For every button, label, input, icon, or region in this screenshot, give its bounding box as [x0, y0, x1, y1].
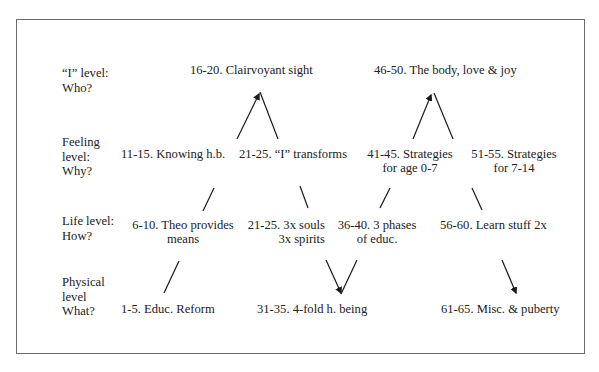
node-51-55: 51-55. Strategies for 7-14: [463, 147, 565, 175]
level-label-i: “I” level: Who?: [62, 66, 109, 95]
level-label-life: Life level: How?: [62, 214, 114, 243]
node-21-25-transforms: 21-25. “I” transforms: [239, 147, 347, 161]
node-36-40: 36-40. 3 phases of educ.: [334, 218, 420, 246]
node-51-55-line1: 51-55. Strategies: [463, 147, 565, 161]
node-61-65: 61-65. Misc. & puberty: [441, 302, 560, 316]
node-41-45: 41-45. Strategies for age 0-7: [360, 147, 460, 175]
node-51-55-line2: for 7-14: [463, 161, 565, 175]
node-41-45-line1: 41-45. Strategies: [360, 147, 460, 161]
node-41-45-line2: for age 0-7: [360, 161, 460, 175]
node-36-40-line1: 36-40. 3 phases: [334, 218, 420, 232]
node-46-50: 46-50. The body, love & joy: [374, 63, 517, 77]
node-6-10: 6-10. Theo provides means: [130, 218, 236, 246]
node-36-40-line2: of educ.: [334, 232, 420, 246]
node-6-10-line2: means: [130, 232, 236, 246]
node-56-60: 56-60. Learn stuff 2x: [440, 218, 547, 232]
level-label-feeling: Feeling level: Why?: [62, 135, 100, 179]
node-21-25-souls: 21-25. 3x souls 3x spirits: [239, 218, 325, 246]
node-1-5: 1-5. Educ. Reform: [121, 302, 215, 316]
node-16-20: 16-20. Clairvoyant sight: [190, 63, 313, 77]
level-label-physical: Physical level What?: [62, 275, 105, 319]
node-6-10-line1: 6-10. Theo provides: [130, 218, 236, 232]
node-31-35: 31-35. 4-fold h. being: [257, 302, 367, 316]
node-21-25-souls-line2: 3x spirits: [239, 232, 325, 246]
node-11-15: 11-15. Knowing h.b.: [121, 147, 225, 161]
node-21-25-souls-line1: 21-25. 3x souls: [239, 218, 325, 232]
